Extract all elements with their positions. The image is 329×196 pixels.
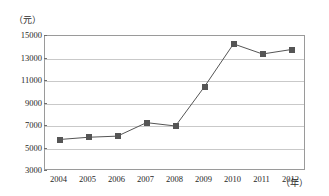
y-axis-tick-mark bbox=[44, 80, 47, 81]
y-axis-tick-mark bbox=[44, 58, 47, 59]
data-point-marker bbox=[260, 51, 266, 57]
y-axis-tick-mark bbox=[44, 170, 47, 171]
y-axis-tick-label: 9000 bbox=[0, 98, 42, 108]
y-axis-tick-label: 3000 bbox=[0, 165, 42, 175]
x-axis-tick-label: 2011 bbox=[253, 174, 270, 184]
x-axis-tick-label: 2007 bbox=[137, 174, 154, 184]
data-point-marker bbox=[86, 134, 92, 140]
y-axis-tick-label: 15000 bbox=[0, 30, 42, 40]
data-point-marker bbox=[289, 47, 295, 53]
x-axis-tick-label: 2009 bbox=[195, 174, 212, 184]
x-axis-tick-label: 2004 bbox=[50, 174, 67, 184]
x-axis-unit-label: （年） bbox=[281, 176, 308, 189]
data-point-marker bbox=[57, 137, 63, 143]
y-axis-tick-mark bbox=[44, 35, 47, 36]
series-line bbox=[45, 36, 306, 171]
data-point-marker bbox=[115, 133, 121, 139]
x-axis-tick-label: 2010 bbox=[224, 174, 241, 184]
x-axis-tick-label: 2006 bbox=[108, 174, 125, 184]
y-axis-tick-label: 7000 bbox=[0, 120, 42, 130]
y-axis-tick-mark bbox=[44, 125, 47, 126]
y-axis-tick-label: 11000 bbox=[0, 75, 42, 85]
data-point-marker bbox=[173, 123, 179, 129]
data-point-marker bbox=[144, 120, 150, 126]
data-point-marker bbox=[231, 41, 237, 47]
x-axis-tick-label: 2008 bbox=[166, 174, 183, 184]
y-axis-tick-label: 5000 bbox=[0, 143, 42, 153]
y-axis-tick-label: 13000 bbox=[0, 53, 42, 63]
y-axis-tick-labels: 1500013000110009000700050003000 bbox=[0, 35, 42, 170]
x-axis-tick-label: 2005 bbox=[79, 174, 96, 184]
plot-area bbox=[44, 35, 305, 170]
y-axis-tick-mark bbox=[44, 103, 47, 104]
data-point-marker bbox=[202, 84, 208, 90]
line-chart: （元） 1500013000110009000700050003000 2004… bbox=[0, 0, 329, 196]
y-axis-tick-mark bbox=[44, 148, 47, 149]
y-axis-unit-label: （元） bbox=[14, 13, 41, 26]
x-axis-tick-labels: 200420052006200720082009201020112012 bbox=[44, 171, 305, 191]
